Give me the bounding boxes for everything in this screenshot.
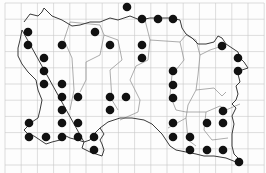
coastline	[18, 8, 248, 162]
record-dot	[90, 133, 99, 142]
record-dot	[25, 133, 34, 142]
record-dot	[74, 119, 83, 128]
record-dot	[138, 41, 147, 50]
record-dot	[24, 28, 33, 37]
record-dot	[58, 119, 67, 128]
record-dot	[40, 67, 49, 76]
distribution-map	[0, 0, 266, 173]
record-dot	[106, 93, 115, 102]
record-dot	[169, 119, 178, 128]
record-dot	[219, 146, 228, 155]
record-dot	[40, 80, 49, 89]
record-dot	[58, 93, 67, 102]
record-dot	[40, 54, 49, 63]
record-dot	[138, 15, 147, 24]
record-dot	[234, 54, 243, 63]
record-dot	[106, 106, 115, 115]
record-dot	[219, 107, 228, 116]
record-dot	[218, 42, 227, 51]
record-dot	[169, 15, 178, 24]
record-dot	[58, 106, 67, 115]
record-dot	[169, 133, 178, 142]
record-dot	[235, 158, 244, 167]
record-dot	[203, 146, 212, 155]
map-canvas	[0, 0, 266, 173]
record-dot	[74, 133, 83, 142]
record-dot	[169, 67, 178, 76]
record-dot	[25, 119, 34, 128]
record-dot	[91, 28, 100, 37]
record-dot	[169, 81, 178, 90]
record-dot	[122, 93, 131, 102]
record-dot	[58, 80, 67, 89]
record-dot	[24, 41, 33, 50]
record-dot	[169, 94, 178, 103]
record-dots	[24, 3, 244, 167]
record-dot	[106, 41, 115, 50]
record-dot	[138, 54, 147, 63]
record-dot	[154, 15, 163, 24]
record-dot	[90, 146, 99, 155]
record-dot	[58, 133, 67, 142]
record-dot	[219, 119, 228, 128]
parish-boundaries	[64, 20, 240, 146]
record-dot	[186, 146, 195, 155]
record-dot	[42, 133, 51, 142]
record-dot	[186, 133, 195, 142]
record-dot	[234, 67, 243, 76]
record-dot	[74, 93, 83, 102]
record-dot	[123, 3, 132, 12]
record-dot	[203, 119, 212, 128]
record-dot	[58, 41, 67, 50]
